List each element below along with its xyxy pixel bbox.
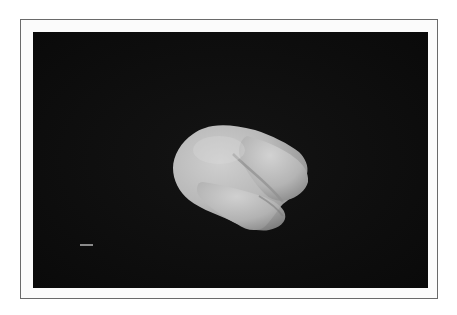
render-panel (33, 32, 428, 288)
object-highlight (193, 136, 245, 164)
rendered-scene (33, 32, 428, 288)
scale-bar (80, 244, 93, 246)
